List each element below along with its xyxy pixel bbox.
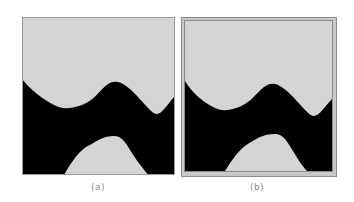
panel-a-image	[22, 17, 175, 175]
caption-a: (a)	[78, 182, 118, 192]
caption-b: (b)	[237, 182, 277, 192]
panel-b-image	[181, 17, 337, 177]
panel-a	[22, 17, 175, 175]
panel-b	[181, 17, 337, 177]
